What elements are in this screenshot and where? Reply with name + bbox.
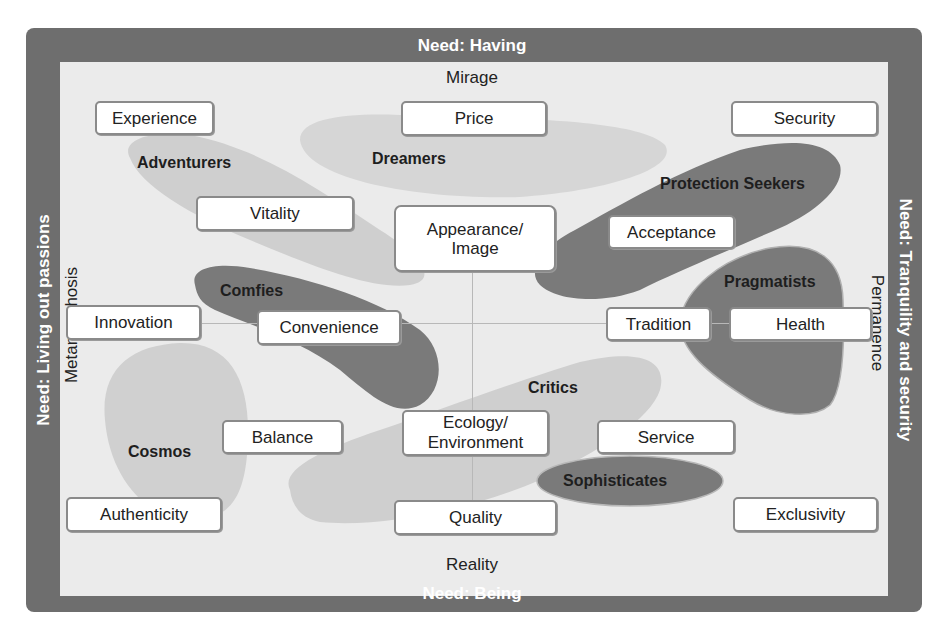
- need-living-out-passions-label: Need: Living out passions: [34, 214, 54, 426]
- value-box-security: Security: [731, 101, 878, 136]
- segment-sophisticates: Sophisticates: [563, 472, 667, 490]
- value-box-health: Health: [729, 307, 872, 341]
- need-being-label: Need: Being: [0, 584, 944, 604]
- value-box-exclusivity: Exclusivity: [733, 497, 878, 532]
- segment-critics: Critics: [528, 379, 578, 397]
- value-box-innovation: Innovation: [66, 305, 201, 340]
- value-box-price: Price: [401, 101, 547, 136]
- vertical-axis-line: [472, 270, 473, 500]
- value-box-authenticity: Authenticity: [66, 497, 222, 532]
- need-having-label: Need: Having: [0, 36, 944, 56]
- axis-mirage-label: Mirage: [0, 68, 944, 88]
- segment-protection-seekers: Protection Seekers: [660, 175, 805, 193]
- value-box-balance: Balance: [222, 420, 343, 454]
- segment-comfies: Comfies: [220, 282, 283, 300]
- segment-adventurers: Adventurers: [137, 154, 231, 172]
- axis-reality-label: Reality: [0, 555, 944, 575]
- value-box-convenience: Convenience: [257, 310, 401, 345]
- value-box-vitality: Vitality: [196, 196, 354, 231]
- segment-pragmatists: Pragmatists: [724, 273, 816, 291]
- value-box-acceptance: Acceptance: [608, 215, 735, 249]
- value-box-ecology-environment: Ecology/ Environment: [402, 410, 549, 456]
- segment-cosmos: Cosmos: [128, 443, 191, 461]
- value-box-tradition: Tradition: [606, 307, 711, 341]
- value-box-quality: Quality: [394, 500, 557, 535]
- value-box-appearance-image: Appearance/ Image: [394, 205, 556, 272]
- need-tranquility-security-label: Need: Tranquility and security: [895, 199, 915, 442]
- segment-dreamers: Dreamers: [372, 150, 446, 168]
- value-box-experience: Experience: [95, 101, 214, 135]
- value-box-service: Service: [597, 420, 735, 454]
